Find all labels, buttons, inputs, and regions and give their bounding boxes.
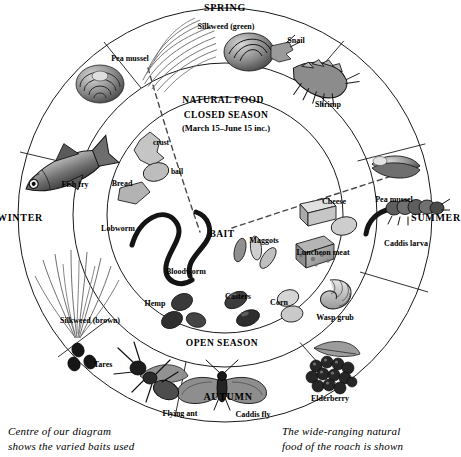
art-maggots — [232, 235, 280, 271]
art-caddis-fly — [177, 360, 266, 410]
art-bread-ball — [141, 160, 171, 184]
art-shrimp — [289, 55, 362, 110]
art-luncheon-meat — [296, 236, 334, 268]
art-flying-ant — [114, 342, 188, 403]
season-split-dashed-lines — [148, 68, 392, 232]
wheel-rings — [18, 8, 432, 422]
art-tares — [66, 341, 98, 372]
art-silkweed-brown — [35, 250, 119, 338]
art-cheese — [300, 198, 359, 238]
art-pea-mussel-spring — [76, 65, 124, 103]
art-elderberry — [306, 341, 360, 394]
art-bread-crust — [134, 132, 164, 166]
art-bread-flake — [118, 182, 150, 204]
art-corn — [275, 287, 304, 323]
art-silkweed-green — [128, 13, 229, 98]
art-caddis-larva — [366, 199, 450, 234]
art-snail — [224, 33, 300, 71]
art-bloodworm — [132, 212, 210, 284]
art-casters — [222, 288, 262, 330]
art-pea-mussel-summer — [372, 156, 420, 178]
art-fish-fry — [16, 127, 123, 207]
outer-circle — [18, 8, 432, 422]
art-wasp-grub — [321, 280, 352, 309]
